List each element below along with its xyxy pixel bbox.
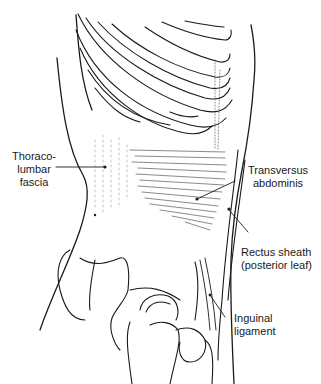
label-line: abdominis [248,177,308,190]
anatomy-figure: Thoraco- lumbar fascia Transversus abdom… [0,0,321,384]
label-line: Thoraco- [12,150,56,163]
inguinal-ligament-lines [200,258,216,330]
leader-lines [56,167,248,317]
label-line: Rectus sheath [241,246,312,259]
label-line: Inguinal [234,312,276,325]
hip-joint [127,295,212,384]
label-rectus-sheath: Rectus sheath (posterior leaf) [241,246,312,272]
label-inguinal-ligament: Inguinal ligament [234,312,276,338]
fascia-texture [95,135,127,215]
leader-dots [94,165,231,296]
label-transversus-abdominis: Transversus abdominis [248,164,308,190]
ribs [76,14,232,134]
label-line: (posterior leaf) [241,259,312,272]
body-outline [40,15,255,384]
label-line: Transversus [248,164,308,177]
label-line: ligament [234,325,276,338]
transversus-abdominis-fibers [130,60,226,230]
label-thoracolumbar-fascia: Thoraco- lumbar fascia [12,150,56,189]
label-line: lumbar [12,163,56,176]
label-line: fascia [12,176,56,189]
